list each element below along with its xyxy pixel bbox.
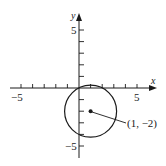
y-axis-label: y bbox=[70, 10, 76, 21]
x-tick-label-neg5: −5 bbox=[11, 91, 23, 103]
y-axis-arrow-icon bbox=[76, 13, 82, 21]
center-point bbox=[89, 109, 93, 113]
center-point-label: (1, −2) bbox=[127, 117, 157, 130]
y-tick-label-5: 5 bbox=[71, 24, 77, 36]
y-tick-label-neg5: −5 bbox=[65, 140, 77, 152]
coordinate-plane: x −5 5 y 5 −5 (1, −2) bbox=[0, 0, 166, 166]
x-axis: x −5 5 bbox=[10, 75, 157, 103]
x-tick-label-5: 5 bbox=[134, 91, 140, 103]
x-axis-label: x bbox=[150, 75, 156, 86]
leader-line bbox=[92, 112, 126, 123]
